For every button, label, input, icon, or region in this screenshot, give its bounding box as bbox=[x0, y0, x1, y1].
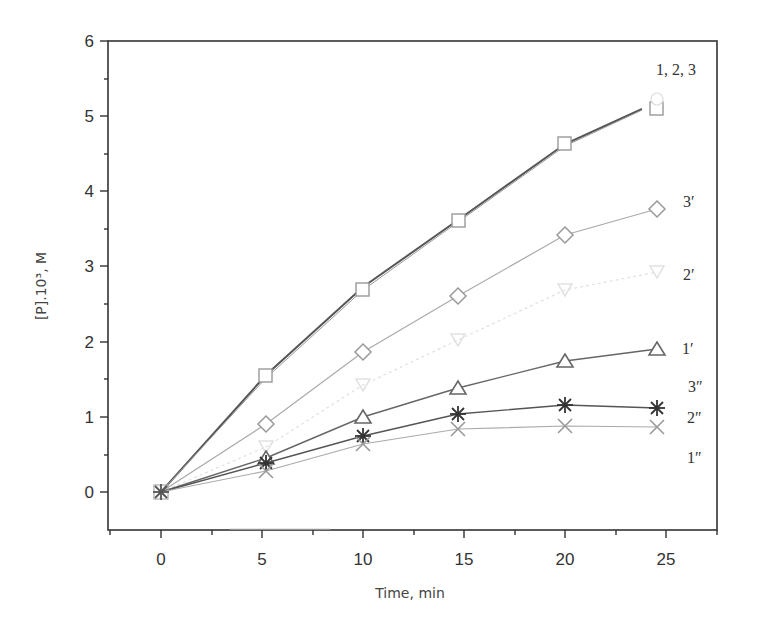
x-tick-label: 25 bbox=[657, 550, 676, 569]
label-2-prime: 2′ bbox=[683, 266, 695, 283]
y-tick-label: 3 bbox=[85, 257, 94, 276]
x-tick-label: 5 bbox=[257, 550, 266, 569]
x-axis-title: Time, min bbox=[374, 585, 445, 601]
y-axis-title: [P].10³, M bbox=[33, 252, 49, 320]
y-tick-label: 4 bbox=[85, 182, 94, 201]
x-tick-label: 10 bbox=[354, 550, 373, 569]
plot-frame bbox=[108, 41, 717, 530]
series-2-prime bbox=[161, 266, 664, 492]
chart: 0 1 2 3 4 5 6 0 5 10 15 20 25 Time, min … bbox=[0, 0, 759, 628]
x-tick-label: 20 bbox=[556, 550, 575, 569]
label-1-prime: 1′ bbox=[682, 340, 694, 357]
x-axis bbox=[110, 530, 717, 538]
label-1-2-3: 1, 2, 3 bbox=[656, 61, 696, 78]
x-tick-label: 0 bbox=[156, 550, 165, 569]
x-tick-label: 15 bbox=[455, 550, 474, 569]
x-tick-labels: 0 5 10 15 20 25 bbox=[156, 550, 675, 569]
label-2-double-prime: 2″ bbox=[687, 409, 702, 426]
y-tick-label: 6 bbox=[85, 32, 94, 51]
y-tick-label: 1 bbox=[85, 408, 94, 427]
label-3-double-prime: 3″ bbox=[688, 378, 703, 395]
label-3-prime: 3′ bbox=[683, 193, 695, 210]
y-tick-label: 5 bbox=[85, 107, 94, 126]
series-labels: 1, 2, 3 3′ 2′ 1′ 3″ 2″ 1″ bbox=[656, 61, 703, 466]
series-1-double-prime bbox=[161, 419, 664, 492]
label-1-double-prime: 1″ bbox=[687, 449, 702, 466]
origin-marker bbox=[153, 484, 169, 500]
series-1-prime bbox=[161, 342, 665, 492]
y-tick-label: 0 bbox=[85, 483, 94, 502]
y-tick-labels: 0 1 2 3 4 5 6 bbox=[85, 32, 94, 502]
series-2-double-prime bbox=[161, 397, 665, 492]
y-tick-label: 2 bbox=[85, 333, 94, 352]
y-axis bbox=[100, 41, 108, 492]
series-1-2-3 bbox=[161, 93, 663, 492]
series-3-prime bbox=[161, 201, 665, 492]
